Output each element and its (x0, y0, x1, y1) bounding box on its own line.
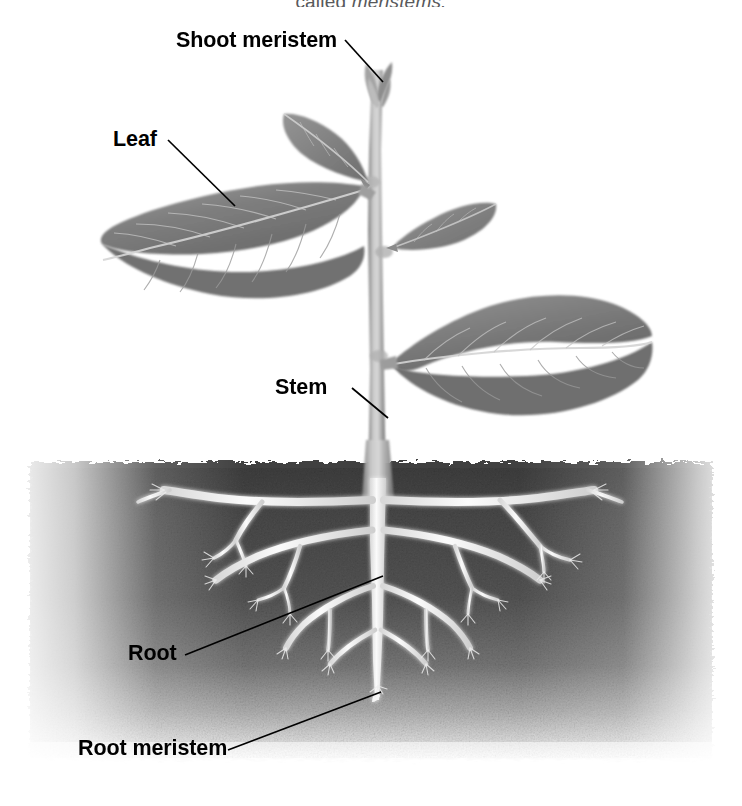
leaf-small-upper-left (283, 114, 370, 190)
leaf-large-right (380, 295, 652, 415)
label-leaf: Leaf (113, 129, 157, 151)
leaf-small-right (386, 203, 496, 252)
leaf-large-left (101, 182, 376, 298)
leader-shoot-meristem (345, 40, 383, 82)
stem-axis (362, 70, 394, 500)
plant-anatomy-figure: called meristems. (0, 0, 742, 806)
label-stem: Stem (275, 377, 327, 399)
label-shoot-meristem: Shoot meristem (176, 30, 337, 52)
leader-leaf (168, 140, 235, 206)
illustration-layer (0, 0, 742, 806)
label-root: Root (128, 643, 177, 665)
label-root-meristem: Root meristem (78, 738, 227, 760)
